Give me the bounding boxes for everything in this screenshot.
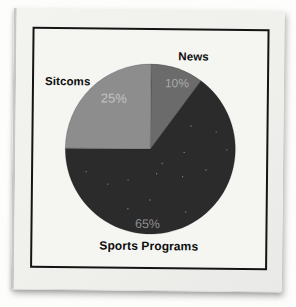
slice-pct-sports: 65% <box>117 218 177 232</box>
slice-pct-news: 10% <box>147 77 207 91</box>
slice-label-sitcoms: Sitcoms <box>45 75 91 88</box>
chart-frame: News Sitcoms Sports Programs 10% 25% 65% <box>30 27 270 270</box>
paper-card: News Sitcoms Sports Programs 10% 25% 65% <box>11 8 285 293</box>
slice-pct-sitcoms: 25% <box>84 91 144 106</box>
slice-label-sports: Sports Programs <box>32 239 265 255</box>
slice-label-news: News <box>178 50 209 63</box>
